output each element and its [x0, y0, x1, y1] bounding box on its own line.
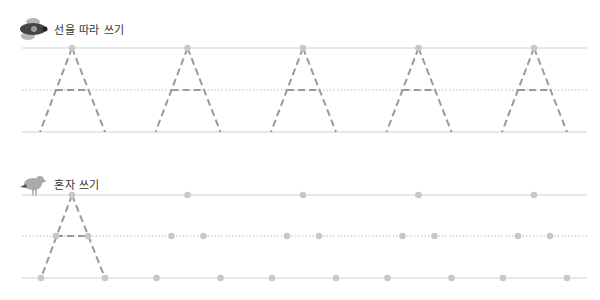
writing-guide [0, 0, 600, 300]
guide-dots [38, 45, 571, 282]
practice-lines [22, 195, 587, 278]
